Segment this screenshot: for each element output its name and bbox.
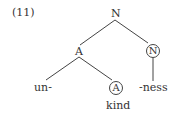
edge-root-left — [80, 20, 115, 45]
edge-a-un — [46, 57, 79, 80]
node-circled-a: A — [109, 81, 123, 95]
leaf-kind: kind — [106, 100, 130, 112]
node-circled-n: N — [146, 44, 160, 58]
leaf-ness: -ness — [139, 82, 168, 94]
edge-root-right — [115, 20, 148, 43]
edge-a-a — [79, 57, 112, 80]
leaf-un: un- — [34, 82, 52, 94]
node-root-n: N — [111, 8, 121, 20]
example-number: (11) — [12, 7, 35, 19]
node-a: A — [75, 46, 83, 58]
